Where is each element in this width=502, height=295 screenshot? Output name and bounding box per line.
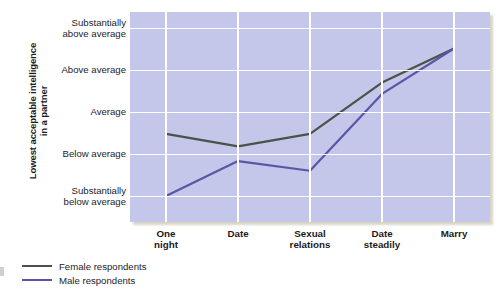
plot-area <box>130 12 490 222</box>
chart-legend: Female respondentsMale respondents <box>22 259 252 287</box>
gridline-vertical-3 <box>381 12 382 222</box>
page-edge-artifact <box>0 267 4 276</box>
x-tick-label-1: Date <box>227 228 248 239</box>
y-tick-label-4: Substantiallyabove average <box>34 18 126 39</box>
y-tick-label-0: Substantiallybelow average <box>34 186 126 207</box>
gridline-vertical-0 <box>165 12 166 222</box>
x-tick-label-2: Sexualrelations <box>290 228 331 251</box>
x-tick-label-3: Datesteadily <box>364 228 401 251</box>
y-tick-label-1: Below average <box>34 149 126 160</box>
y-tick-label-2: Average <box>34 107 126 118</box>
legend-label: Male respondents <box>59 275 135 286</box>
gridline-vertical-4 <box>453 12 454 222</box>
x-tick-label-4: Marry <box>441 228 468 239</box>
x-tick-label-0: Onenight <box>154 228 178 251</box>
legend-item-male: Male respondents <box>22 273 252 287</box>
gridline-vertical-2 <box>309 12 310 222</box>
legend-label: Female respondents <box>59 261 146 272</box>
legend-swatch-icon <box>22 265 52 268</box>
y-tick-label-3: Above average <box>34 65 126 76</box>
y-axis-tick-labels: Substantiallybelow averageBelow averageA… <box>34 12 126 222</box>
chart-figure: Lowest acceptable intelligence in a part… <box>0 0 502 295</box>
legend-swatch-icon <box>22 279 52 282</box>
gridline-vertical-1 <box>237 12 238 222</box>
legend-item-female: Female respondents <box>22 259 252 273</box>
x-axis-tick-labels: OnenightDateSexualrelationsDatesteadilyM… <box>130 228 490 262</box>
